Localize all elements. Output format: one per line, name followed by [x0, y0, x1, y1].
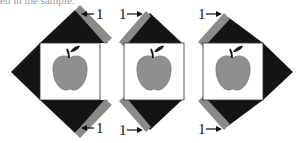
label-3-top: 1 [198, 7, 206, 22]
block-left [11, 5, 112, 138]
label-1-top: 1 [96, 7, 104, 22]
diagram-svg [0, 0, 301, 143]
label-3-bottom: 1 [198, 122, 206, 137]
label-1-bottom: 1 [96, 121, 104, 136]
left-triangle [11, 43, 40, 100]
label-2-top: 1 [119, 7, 127, 22]
block-middle [119, 11, 184, 133]
quilt-diagram: ed in the sample. [0, 0, 301, 143]
label-2-bottom: 1 [119, 123, 127, 138]
block-right [198, 11, 293, 132]
